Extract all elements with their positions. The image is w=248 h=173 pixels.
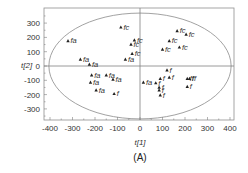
point-label: fc [172, 36, 178, 45]
data-point: f [112, 89, 119, 98]
triangle-marker-icon [165, 68, 168, 71]
data-point: fc [178, 43, 188, 52]
x-tick-label: 100 [156, 124, 170, 133]
triangle-marker-icon [94, 88, 97, 91]
pca-score-plot: -300-200-1000100200300 -400-300-200-1000… [0, 0, 248, 173]
point-label: ff [192, 74, 197, 83]
x-tick-label: 300 [201, 124, 215, 133]
triangle-marker-icon [124, 58, 127, 61]
point-label: fc [165, 45, 171, 54]
triangle-marker-icon [89, 80, 92, 83]
y-tick-label: 200 [27, 33, 41, 42]
y-axis-label: t[2] [21, 61, 33, 70]
y-tick-label: -200 [24, 91, 41, 100]
triangle-marker-icon [186, 85, 189, 88]
point-label: fa [99, 86, 105, 95]
x-axis-label: t[1] [134, 138, 146, 147]
triangle-marker-icon [129, 43, 132, 46]
data-point: f [159, 91, 166, 100]
x-tick-label: -200 [87, 124, 104, 133]
y-tick-label: 100 [27, 48, 41, 57]
triangle-marker-icon [119, 25, 122, 28]
triangle-marker-icon [66, 39, 69, 42]
y-tick-label: 0 [36, 62, 41, 71]
scatter-plot-canvas: -300-200-1000100200300 -400-300-200-1000… [0, 0, 248, 173]
x-tick-label: 200 [178, 124, 192, 133]
point-label: fc [134, 40, 140, 49]
data-point: fa [142, 78, 152, 87]
triangle-marker-icon [105, 73, 108, 76]
point-label: fc [180, 26, 186, 35]
figure-caption: (A) [133, 152, 146, 163]
point-label: fc [182, 43, 188, 52]
y-tick-label: -300 [24, 105, 41, 114]
point-label: f [163, 91, 166, 100]
triangle-marker-icon [130, 52, 133, 55]
point-label: fa [92, 60, 98, 69]
data-points: fafafafafafafafaffafcfcfcfcfaffffffffcfc… [66, 23, 197, 100]
x-tick-label: -400 [42, 124, 59, 133]
x-tick-label: 0 [138, 124, 143, 133]
x-tick-label: 400 [223, 124, 237, 133]
triangle-marker-icon [175, 29, 178, 32]
point-label: fc [123, 23, 129, 32]
point-label: f [190, 82, 193, 91]
point-label: fc [135, 49, 141, 58]
triangle-marker-icon [112, 92, 115, 95]
point-label: f [172, 73, 175, 82]
data-point: fc [175, 26, 185, 35]
data-point: fc [184, 30, 194, 39]
point-label: fa [116, 75, 122, 84]
point-label: fa [128, 55, 134, 64]
data-point: fc [129, 40, 139, 49]
triangle-marker-icon [79, 58, 82, 61]
data-point: f [165, 66, 172, 75]
point-label: fa [71, 36, 77, 45]
data-point: fa [79, 55, 89, 64]
data-point: f [186, 82, 193, 91]
point-label: fa [83, 55, 89, 64]
triangle-marker-icon [154, 81, 157, 84]
data-point: fa [124, 55, 134, 64]
point-label: fc [189, 30, 195, 39]
data-point: fa [88, 60, 98, 69]
triangle-marker-icon [142, 80, 145, 83]
x-tick-label: -300 [64, 124, 81, 133]
triangle-marker-icon [90, 73, 93, 76]
triangle-marker-icon [157, 88, 160, 91]
y-tick-label: -100 [24, 76, 41, 85]
data-point: fc [161, 45, 171, 54]
data-point: fc [119, 23, 129, 32]
triangle-marker-icon [168, 39, 171, 42]
triangle-marker-icon [168, 75, 171, 78]
point-label: fa [109, 71, 115, 80]
triangle-marker-icon [178, 45, 181, 48]
y-tick-label: 300 [27, 19, 41, 28]
data-point: fa [66, 36, 76, 45]
point-label: fa [146, 78, 152, 87]
triangle-marker-icon [161, 48, 164, 51]
data-point: fa [94, 86, 104, 95]
point-label: f [117, 89, 120, 98]
x-tick-label: -100 [109, 124, 126, 133]
